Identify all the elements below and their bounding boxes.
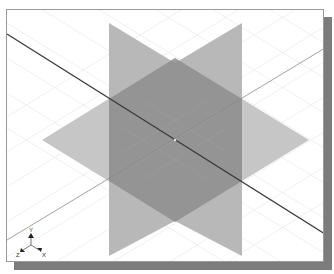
viewport-shadow-right bbox=[324, 17, 332, 270]
triad-z-label: Z bbox=[16, 252, 20, 258]
graphics-viewport[interactable]: Y Z X bbox=[6, 9, 324, 262]
triad-y-label: Y bbox=[29, 227, 33, 233]
y-arrow-icon bbox=[28, 233, 34, 238]
origin-point bbox=[174, 139, 177, 142]
viewport-shadow-bottom bbox=[14, 262, 332, 270]
triad-x-label: X bbox=[42, 252, 46, 258]
scene-canvas[interactable]: Y Z X bbox=[7, 10, 324, 262]
